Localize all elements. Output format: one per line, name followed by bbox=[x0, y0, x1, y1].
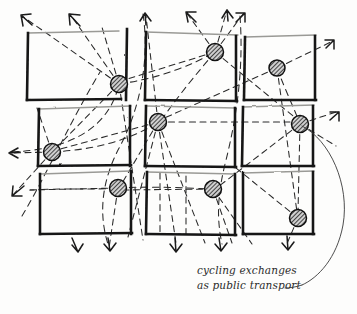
block-outline bbox=[38, 109, 39, 166]
curved-route bbox=[22, 72, 100, 216]
block-edge-light bbox=[39, 106, 131, 109]
block-edge-light bbox=[243, 171, 314, 173]
route-line bbox=[58, 84, 119, 146]
node-bottom-left[interactable] bbox=[110, 180, 127, 197]
route-line bbox=[128, 122, 158, 237]
arrowhead-up bbox=[140, 13, 151, 25]
route-line bbox=[158, 122, 205, 243]
arrowhead-down-left bbox=[12, 186, 24, 196]
route-line bbox=[158, 122, 176, 243]
node-left-middle[interactable] bbox=[44, 144, 61, 161]
arrowhead-down bbox=[72, 238, 83, 252]
city-block-grid bbox=[27, 29, 316, 235]
block-outline bbox=[242, 107, 243, 166]
route-line bbox=[160, 68, 277, 120]
route-line bbox=[298, 124, 300, 212]
node-bottom-middle[interactable] bbox=[205, 181, 222, 198]
arrowhead-up bbox=[222, 10, 233, 21]
block-edge-light bbox=[245, 35, 316, 37]
block-outline bbox=[27, 99, 121, 100]
block-edge-light bbox=[243, 105, 314, 107]
route-line bbox=[236, 168, 298, 218]
block-outline bbox=[27, 33, 28, 100]
node-top-left[interactable] bbox=[111, 76, 128, 93]
caption-leader-tail bbox=[285, 285, 302, 288]
arrowhead-up-left bbox=[186, 12, 196, 22]
block-edge-light bbox=[147, 106, 235, 108]
block-edge-light bbox=[146, 32, 238, 35]
route-line bbox=[22, 16, 119, 84]
route-line bbox=[70, 14, 119, 84]
block-outline bbox=[145, 166, 236, 167]
block-outline bbox=[146, 172, 147, 234]
urban-cycling-diagram bbox=[0, 0, 357, 314]
arrowhead-up-left bbox=[21, 14, 32, 26]
cycling-exchange-nodes bbox=[44, 44, 309, 227]
block-outline bbox=[146, 234, 236, 235]
node-bottom-right[interactable] bbox=[290, 210, 307, 227]
arrowhead-up-left bbox=[69, 14, 80, 26]
node-right-middle[interactable] bbox=[292, 116, 309, 133]
block-edge-light bbox=[40, 171, 131, 174]
route-line bbox=[277, 41, 333, 68]
route-line bbox=[101, 24, 119, 84]
route-line bbox=[57, 122, 158, 150]
dashed-curved-routes bbox=[12, 14, 300, 250]
block-outline bbox=[145, 32, 146, 100]
dashed-route-network bbox=[10, 10, 336, 248]
curved-route bbox=[160, 52, 215, 122]
route-line bbox=[124, 52, 215, 80]
route-line bbox=[215, 52, 298, 120]
block-outline bbox=[145, 100, 237, 101]
caption-leader-line bbox=[302, 126, 344, 285]
block-outline bbox=[38, 165, 131, 166]
node-top-right[interactable] bbox=[269, 60, 285, 76]
block-outline bbox=[244, 37, 245, 100]
arrowhead-down bbox=[215, 238, 227, 251]
node-top-middle[interactable] bbox=[207, 44, 224, 61]
block-outline bbox=[145, 106, 146, 166]
sketch-canvas: cycling exchanges as public transport bbox=[0, 0, 357, 314]
arrowhead-down bbox=[282, 236, 294, 250]
block-outline bbox=[40, 233, 132, 234]
node-center[interactable] bbox=[150, 114, 167, 131]
block-edge-light bbox=[28, 31, 119, 33]
